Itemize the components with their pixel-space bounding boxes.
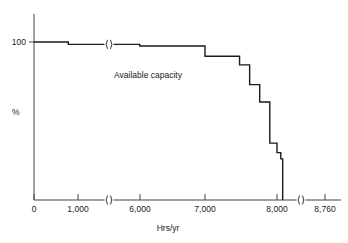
x-tick-label: 6,000 [129, 204, 151, 214]
x-axis-tick-labels: 01,0006,0007,0008,0008,760 [32, 204, 336, 214]
available-capacity-step-curve [34, 42, 283, 200]
available-capacity-chart: 100 01,0006,0007,0008,0008,760 % Hrs/yr … [0, 0, 348, 243]
y-axis-title: % [12, 107, 20, 117]
x-tick-label: 1,000 [67, 204, 89, 214]
chart-container: 100 01,0006,0007,0008,0008,760 % Hrs/yr … [0, 0, 348, 243]
x-tick-label: 8,000 [266, 204, 288, 214]
curve-break-symbol [105, 40, 114, 49]
x-tick-label: 8,760 [314, 204, 336, 214]
y-axis-tick-labels: 100 [12, 37, 26, 47]
x-tick-label: 7,000 [194, 204, 216, 214]
x-tick-label: 0 [32, 204, 37, 214]
x-axis-ticks [34, 194, 325, 200]
available-capacity-annotation: Available capacity [114, 70, 183, 80]
x-axis-title: Hrs/yr [157, 223, 180, 233]
y-tick-label: 100 [12, 37, 26, 47]
